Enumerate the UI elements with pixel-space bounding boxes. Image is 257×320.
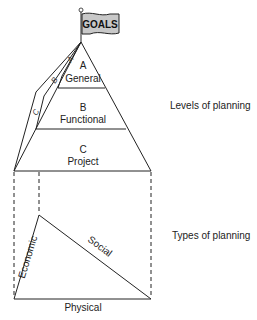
side-face-letter-b: B <box>49 75 60 85</box>
planning-diagram: GOALS A B C A General B Functional C Pro… <box>0 0 257 320</box>
level-b-letter: B <box>80 102 87 113</box>
level-b-name: Functional <box>60 114 106 125</box>
levels-of-planning-label: Levels of planning <box>170 100 251 111</box>
level-c-letter: C <box>79 144 86 155</box>
types-triangle <box>14 215 151 299</box>
level-a-letter: A <box>80 60 87 71</box>
projection-lines <box>14 172 151 298</box>
goals-flag: GOALS <box>79 8 119 42</box>
level-c-name: Project <box>67 156 98 167</box>
side-physical: Physical <box>64 302 101 313</box>
flag-pole-top <box>79 8 83 12</box>
types-of-planning-label: Types of planning <box>172 230 250 241</box>
side-social: Social <box>86 234 114 259</box>
level-a-name: General <box>65 73 101 84</box>
flag-label: GOALS <box>82 19 118 30</box>
side-economic: Economic <box>16 234 39 279</box>
